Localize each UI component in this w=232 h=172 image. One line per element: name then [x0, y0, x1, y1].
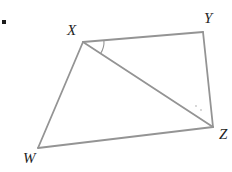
vertex-label-x: X	[67, 23, 76, 38]
edge-xy	[83, 32, 203, 42]
diagonal-xz	[83, 42, 213, 127]
angle-arc-icon	[101, 40, 104, 53]
angle-mark-at-x	[101, 40, 104, 53]
quadrilateral-edges	[38, 32, 213, 148]
vertex-label-y: Y	[204, 11, 212, 26]
worksheet-page: X Y Z W	[0, 0, 232, 172]
edge-wx	[38, 42, 83, 148]
edge-yz	[203, 32, 213, 127]
edge-zw	[38, 127, 213, 148]
quadrilateral-wxyz-figure	[0, 0, 232, 172]
faint-dot	[200, 109, 202, 111]
vertex-label-z: Z	[219, 127, 227, 142]
faint-marks-near-z	[195, 105, 202, 111]
edge-xz	[83, 42, 213, 127]
faint-dot	[195, 105, 197, 107]
vertex-label-w: W	[23, 151, 36, 166]
